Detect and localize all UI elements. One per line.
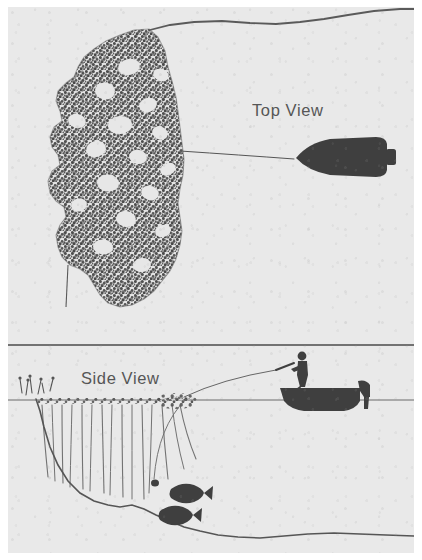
lure-side — [151, 480, 159, 487]
lake-bottom-contour — [36, 399, 414, 538]
outboard-motor-top — [386, 149, 396, 165]
fish-upper — [170, 484, 214, 504]
boat-top-silhouette — [296, 137, 396, 177]
illustration-page: Top View Side View — [0, 0, 422, 560]
shoreline-contour — [146, 9, 414, 31]
fish-lower — [159, 506, 203, 526]
emergent-weed-tips — [18, 374, 54, 395]
submerged-weed-stalks — [42, 405, 196, 499]
cast-line-side — [184, 370, 276, 397]
side-view-label: Side View — [81, 369, 159, 388]
scanned-plate: Top View Side View — [8, 7, 414, 553]
cast-line-top — [180, 151, 294, 159]
top-view-label: Top View — [252, 101, 323, 120]
fish-silhouettes — [151, 480, 213, 526]
figure-artwork — [8, 7, 414, 553]
boat-side-silhouette — [280, 381, 370, 412]
bed-edge-tick — [66, 265, 68, 307]
